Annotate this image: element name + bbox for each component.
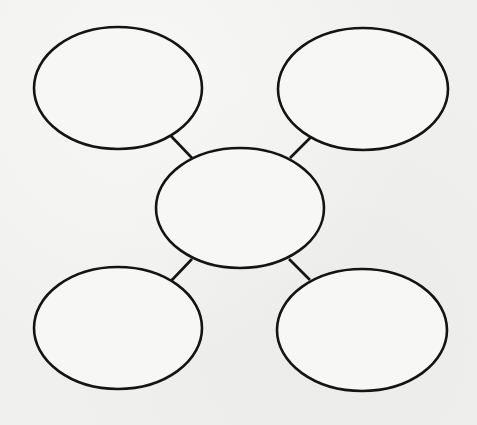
connector-line-top-left: [171, 136, 192, 158]
bubble-web-diagram: [0, 0, 477, 425]
bubble-bottom-left: [34, 267, 202, 389]
bubble-bottom-right: [277, 269, 447, 391]
connector-line-bottom-left: [171, 259, 192, 281]
ellipse-top-right: [278, 28, 448, 150]
bubble-center: [156, 148, 324, 268]
bubble-top-right: [278, 28, 448, 150]
bubble-top-left: [34, 27, 202, 149]
worksheet-page: [0, 0, 477, 425]
ellipse-top-left: [34, 27, 202, 149]
ellipse-center: [156, 148, 324, 268]
connector-line-top-right: [290, 137, 311, 158]
connector-line-bottom-right: [289, 259, 310, 280]
ellipse-bottom-left: [34, 267, 202, 389]
ellipse-bottom-right: [277, 269, 447, 391]
